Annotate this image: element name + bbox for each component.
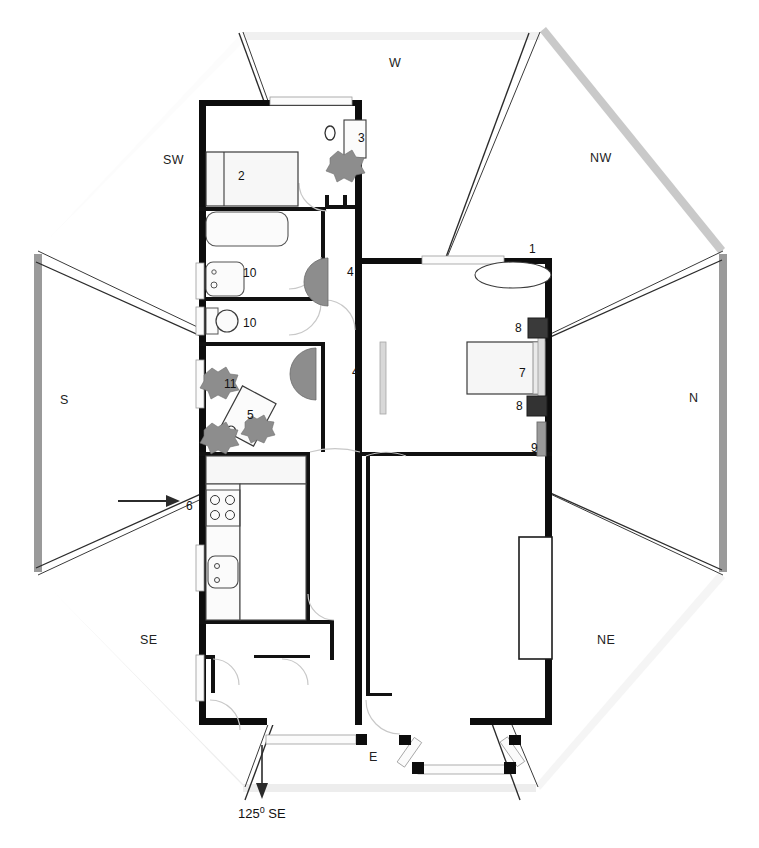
armchair-8-upper xyxy=(528,318,548,338)
room-marker-2: 2 xyxy=(238,169,245,183)
wall-west-exterior xyxy=(199,100,206,725)
floor-plan-canvas xyxy=(0,0,759,848)
partition-bedroom-nook-a xyxy=(325,205,355,209)
room-marker-10-lower: 10 xyxy=(243,316,256,330)
partition-wc-2 xyxy=(211,655,215,693)
wall-south-east xyxy=(470,718,552,725)
compass-label-s: S xyxy=(60,393,69,407)
wall-east-westwing-lower xyxy=(355,258,362,725)
floor-plan-diagram: W NW N NE E SE S SW 1 2 3 4 4 5 6 7 8 8 … xyxy=(0,0,759,848)
partition-kitchen-bottom xyxy=(199,620,334,624)
frame-band-s xyxy=(34,254,42,572)
partition-lr-vert xyxy=(366,456,370,696)
compass-label-se: SE xyxy=(140,633,158,647)
frame-band-ne xyxy=(536,572,725,790)
orientation-label: 1250 SE xyxy=(238,805,286,821)
window-bedroom-north xyxy=(270,97,352,105)
sink-basin xyxy=(208,556,238,588)
room-marker-5: 5 xyxy=(247,408,254,422)
compass-label-e: E xyxy=(369,750,378,764)
room-marker-11: 11 xyxy=(224,377,236,391)
partition-dining-top xyxy=(199,452,309,456)
partition-wc-3 xyxy=(254,655,310,658)
room-marker-8-lower: 8 xyxy=(516,399,523,413)
armchair-8-lower xyxy=(527,396,547,416)
orientation-degrees: 125 xyxy=(238,806,260,821)
compass-label-sw: SW xyxy=(163,153,184,167)
partition-bed-bath xyxy=(199,207,326,211)
compass-label-nw: NW xyxy=(590,151,612,165)
window-bay-center xyxy=(418,765,510,774)
bathtub xyxy=(206,262,244,296)
partition-hall-vert-d xyxy=(330,620,334,660)
frame-band-w xyxy=(243,32,540,40)
kitchen-island xyxy=(240,484,306,620)
window-west-bath xyxy=(196,263,204,299)
room-marker-6: 6 xyxy=(186,499,193,513)
room-marker-1: 1 xyxy=(529,242,536,256)
sun-direction-arrow xyxy=(118,495,180,507)
window-west-kitchen xyxy=(196,545,204,591)
window-south-main xyxy=(266,735,356,744)
partition-bath-mid xyxy=(199,297,321,301)
frame-band-e xyxy=(243,784,536,792)
wardrobe-unit xyxy=(206,212,288,246)
room-marker-8-upper: 8 xyxy=(515,321,522,335)
partition-lr-stub xyxy=(366,693,392,696)
kitchen-fittings xyxy=(206,456,306,620)
partition-living-south xyxy=(362,452,452,456)
compass-label-w: W xyxy=(389,56,401,70)
bed-frame xyxy=(206,152,298,206)
window-living-north xyxy=(422,256,504,264)
room-marker-3: 3 xyxy=(358,131,365,145)
compass-label-n: N xyxy=(689,391,699,405)
compass-label-ne: NE xyxy=(597,633,615,647)
screen-panel xyxy=(380,342,386,414)
room-marker-4-upper: 4 xyxy=(347,265,354,279)
orientation-suffix: SE xyxy=(268,806,285,821)
room-marker-9: 9 xyxy=(531,441,538,455)
toilet-bowl xyxy=(216,310,238,332)
window-west-wc xyxy=(196,307,204,335)
sideboard-9 xyxy=(537,422,546,456)
room-marker-7: 7 xyxy=(519,366,526,380)
room-marker-4-lower: 4 xyxy=(352,365,359,379)
partition-bath-lower xyxy=(199,342,321,346)
wall-south-west-wing xyxy=(199,718,267,725)
kitchen-counter-left xyxy=(206,484,240,620)
degree-symbol: 0 xyxy=(260,805,265,815)
partition-bedroom-nook-b xyxy=(325,195,329,209)
frame-band-n xyxy=(719,254,727,572)
tall-cabinet xyxy=(519,537,552,659)
room-marker-10-upper: 10 xyxy=(243,266,256,280)
partition-hall-vert-b xyxy=(321,342,325,452)
window-west-hall xyxy=(196,655,204,701)
kitchen-counter-top xyxy=(206,456,306,484)
round-table xyxy=(475,262,551,288)
frame-band-nw xyxy=(540,27,725,254)
partition-nook-right xyxy=(343,195,347,209)
